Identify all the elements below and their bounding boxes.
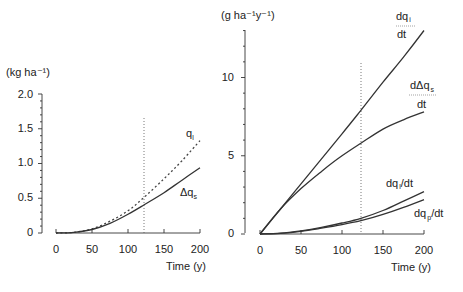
right-y-tick-label: 10 xyxy=(222,71,234,83)
right-label-dql-dt: dql/dt xyxy=(386,177,413,190)
left-y-tick-labels: 0 0.5 1.0 1.5 2.0 xyxy=(18,88,33,238)
left-series-dqs-curve xyxy=(56,168,200,233)
figure: (kg ha⁻¹) 0 0.5 1.0 1.5 2.0 0 50 100 150… xyxy=(0,0,463,292)
right-y-ticks xyxy=(241,31,245,234)
right-label-dqi-dt: dqi dt xyxy=(396,10,415,40)
svg-text:dΔqs: dΔqs xyxy=(410,79,435,93)
left-panel: (kg ha⁻¹) 0 0.5 1.0 1.5 2.0 0 50 100 150… xyxy=(6,66,209,272)
right-y-tick-labels: 0 5 10 xyxy=(222,71,234,239)
right-series-ddqs-dt-curve xyxy=(260,112,424,234)
right-y-tick-label: 0 xyxy=(228,227,234,239)
right-x-tick-label: 50 xyxy=(295,244,307,256)
right-panel: (g ha⁻¹y⁻¹) 0 5 10 0 50 100 150 200 Time… xyxy=(221,9,443,273)
left-unit-label: (kg ha⁻¹) xyxy=(6,66,50,78)
left-y-tick-label: 1.0 xyxy=(18,156,33,168)
right-x-tick-label: 100 xyxy=(333,244,351,256)
svg-text:dqi: dqi xyxy=(396,10,411,23)
right-y-tick-label: 5 xyxy=(228,149,234,161)
right-label-ddqs-dt: dΔqs dt xyxy=(409,79,436,110)
left-y-ticks xyxy=(38,94,42,233)
left-y-tick-label: 0.5 xyxy=(18,191,33,203)
left-series-ql-curve xyxy=(56,141,200,233)
right-x-axis-title: Time (y) xyxy=(391,261,431,273)
left-x-axis-title: Time (y) xyxy=(166,260,206,272)
left-y-tick-label: 1.5 xyxy=(18,122,33,134)
right-unit-label: (g ha⁻¹y⁻¹) xyxy=(221,9,275,21)
left-x-tick-label: 0 xyxy=(53,243,59,255)
right-series-dql-dt-curve xyxy=(260,192,424,234)
left-x-tick-label: 150 xyxy=(155,243,173,255)
svg-text:dt: dt xyxy=(397,28,406,40)
left-y-tick-label: 2.0 xyxy=(18,88,33,100)
right-label-dqp-dt: dqp/dt xyxy=(414,207,443,222)
right-x-tick-labels: 0 50 100 150 200 xyxy=(257,244,433,256)
left-x-tick-label: 50 xyxy=(86,243,98,255)
svg-text:dt: dt xyxy=(417,98,426,110)
right-x-tick-label: 0 xyxy=(257,244,263,256)
left-label-ql: ql xyxy=(186,127,194,141)
left-x-tick-label: 200 xyxy=(191,243,209,255)
right-x-tick-label: 150 xyxy=(374,244,392,256)
left-x-tick-labels: 0 50 100 150 200 xyxy=(53,243,209,255)
left-x-tick-label: 100 xyxy=(119,243,137,255)
left-label-dqs: Δqs xyxy=(180,186,197,200)
right-x-tick-label: 200 xyxy=(415,244,433,256)
left-y-tick-label: 0 xyxy=(27,226,33,238)
